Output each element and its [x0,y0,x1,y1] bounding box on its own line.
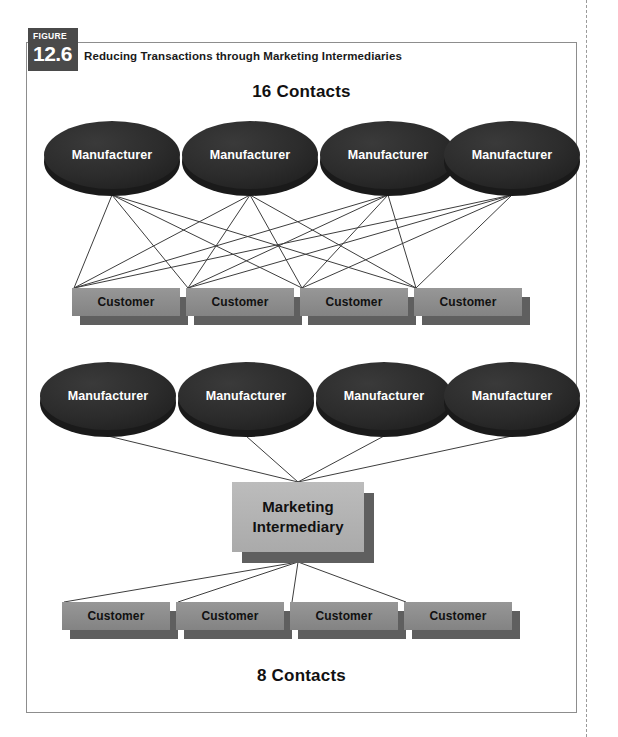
customer-node-0: Customer [72,288,188,325]
figure-badge-word: FIGURE [33,31,78,41]
customer-node-0: Customer [62,602,178,639]
manufacturer-row-bottom: ManufacturerManufacturerManufacturerManu… [40,362,580,437]
manufacturer-label: Manufacturer [344,389,424,403]
link-0-0 [74,195,112,288]
link-2-3 [388,195,416,288]
link-1-0 [74,195,250,288]
link-hub-cust-0 [64,562,298,602]
manufacturer-node-1: Manufacturer [178,362,314,437]
customer-label: Customer [212,295,269,309]
manufacturer-label: Manufacturer [68,389,148,403]
figure-number-badge: FIGURE 12.6 [28,28,78,71]
customer-label: Customer [202,609,259,623]
manufacturer-label: Manufacturer [206,389,286,403]
customer-row-bottom: CustomerCustomerCustomerCustomer [62,602,520,639]
manufacturer-label: Manufacturer [210,148,290,162]
intermediary-label-line2: Intermediary [252,518,344,535]
link-2-1 [188,195,388,288]
link-mfr-hub-3 [298,436,512,482]
customer-label: Customer [98,295,155,309]
manufacturer-label: Manufacturer [348,148,428,162]
intermediary-label-line1: Marketing [262,498,334,515]
transactions-diagram: ManufacturerManufacturerManufacturerManu… [0,0,618,737]
link-2-2 [302,195,388,288]
customer-node-1: Customer [176,602,292,639]
link-hub-cust-3 [298,562,406,602]
link-2-0 [74,195,388,288]
customer-label: Customer [88,609,145,623]
figure-badge-number: 12.6 [33,42,78,65]
customer-row-top: CustomerCustomerCustomerCustomer [72,288,530,325]
link-hub-cust-2 [292,562,298,602]
manufacturer-row-top: ManufacturerManufacturerManufacturerManu… [44,121,580,196]
heading-8-contacts: 8 Contacts [26,666,577,686]
manufacturer-node-0: Manufacturer [44,121,180,196]
link-mfr-hub-2 [298,436,384,482]
customer-node-1: Customer [186,288,302,325]
manufacturer-label: Manufacturer [472,389,552,403]
manufacturer-label: Manufacturer [472,148,552,162]
manufacturer-node-3: Manufacturer [444,362,580,437]
customer-label: Customer [316,609,373,623]
link-hub-cust-1 [178,562,298,602]
manufacturer-node-2: Manufacturer [316,362,452,437]
marketing-intermediary-node: MarketingIntermediary [232,482,374,563]
figure-caption: Reducing Transactions through Marketing … [84,50,402,62]
customer-node-2: Customer [290,602,406,639]
customer-node-2: Customer [300,288,416,325]
link-0-3 [112,195,416,288]
heading-16-contacts: 16 Contacts [26,82,577,102]
link-group-16-contacts [74,195,512,288]
figure-page: FIGURE 12.6 Reducing Transactions throug… [0,0,618,737]
customer-label: Customer [326,295,383,309]
manufacturer-label: Manufacturer [72,148,152,162]
manufacturer-node-3: Manufacturer [444,121,580,196]
link-mfr-hub-1 [246,436,298,482]
link-mfr-hub-0 [108,436,298,482]
customer-node-3: Customer [414,288,530,325]
manufacturer-node-1: Manufacturer [182,121,318,196]
customer-node-3: Customer [404,602,520,639]
manufacturer-node-0: Manufacturer [40,362,176,437]
customer-label: Customer [440,295,497,309]
customer-label: Customer [430,609,487,623]
manufacturer-node-2: Manufacturer [320,121,456,196]
link-0-1 [112,195,188,288]
